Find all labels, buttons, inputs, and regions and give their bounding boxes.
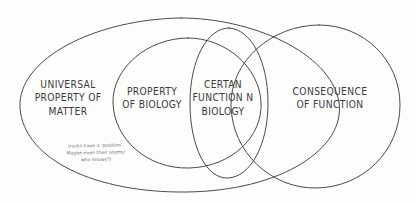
- set-label-consequence-of-function: CONSEQUENCE OF FUNCTION: [282, 85, 378, 111]
- set-label-property-of-biology: PROPERTY OF BIOLOGY: [118, 85, 186, 111]
- venn-diagram-canvas: UNIVERSAL PROPERTY OF MATTER PROPERTY OF…: [0, 0, 416, 203]
- set-label-universal-property-of-matter: UNIVERSAL PROPERTY OF MATTER: [26, 79, 110, 118]
- annotation-rocks-aside: (rocks have a 'position'. Maybe even the…: [54, 141, 138, 164]
- set-label-certain-function-in-biology: CERTAN FUNCTION N BIOLOGY: [188, 79, 258, 118]
